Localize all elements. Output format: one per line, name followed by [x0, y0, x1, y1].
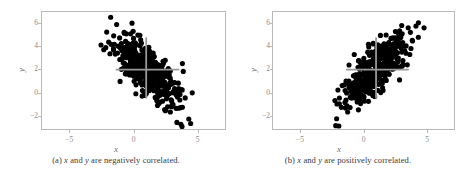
- x-tick-mark: [198, 130, 199, 133]
- y-tick-label: 4: [248, 42, 270, 50]
- x-tick-mark: [69, 130, 70, 133]
- scatter-points-a: [42, 12, 225, 130]
- y-axis-ticks-b: −20246: [244, 11, 270, 130]
- x-tick-label: 0: [353, 135, 375, 144]
- caption-conjunction: and: [68, 155, 85, 165]
- scatter-points-b: [273, 12, 454, 130]
- x-axis-label-a: x: [0, 144, 232, 154]
- y-axis-ticks-a: −20246: [12, 11, 38, 130]
- caption-tail: are positively correlated.: [322, 155, 411, 165]
- plot-area-b: [272, 11, 455, 130]
- y-tick-label: 0: [16, 89, 38, 97]
- panel-b: y −20246 −505 x (b) x and y are positive…: [232, 0, 464, 179]
- y-tick-label: 6: [248, 19, 270, 27]
- y-tick-label: 4: [16, 42, 38, 50]
- y-tick-label: 2: [248, 65, 270, 73]
- x-tick-mark: [427, 130, 428, 133]
- y-tick-label: −2: [248, 112, 270, 120]
- caption-label: (b): [285, 155, 297, 165]
- y-tick-label: 2: [16, 65, 38, 73]
- x-tick-label: −5: [289, 135, 311, 144]
- x-tick-label: 5: [416, 135, 438, 144]
- caption-b: (b) x and y are positively correlated.: [232, 155, 464, 165]
- x-tick-label: 0: [123, 135, 145, 144]
- plot-area-a: [41, 11, 226, 130]
- caption-tail: are negatively correlated.: [89, 155, 180, 165]
- x-tick-mark: [300, 130, 301, 133]
- caption-a: (a) x and y are negatively correlated.: [0, 155, 232, 165]
- x-tick-mark: [134, 130, 135, 133]
- x-tick-label: 5: [187, 135, 209, 144]
- panel-a: y −20246 −505 x (a) x and y are negative…: [0, 0, 232, 179]
- figure-two-scatterplots: y −20246 −505 x (a) x and y are negative…: [0, 0, 464, 179]
- x-axis-label-b: x: [223, 144, 455, 154]
- y-tick-label: −2: [16, 112, 38, 120]
- caption-conjunction: and: [301, 155, 318, 165]
- x-tick-mark: [364, 130, 365, 133]
- x-tick-label: −5: [58, 135, 80, 144]
- y-tick-label: 6: [16, 19, 38, 27]
- y-tick-label: 0: [248, 89, 270, 97]
- caption-label: (a): [52, 155, 64, 165]
